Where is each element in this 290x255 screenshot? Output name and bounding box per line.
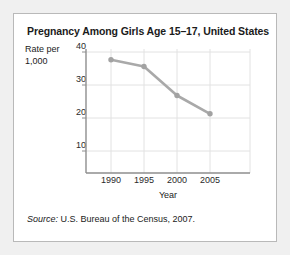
chart-plot-area: Rate per 1,000 40 30 20 10 1990 1995 200… [14, 14, 278, 243]
source-note: Source: U.S. Bureau of the Census, 2007. [27, 214, 195, 224]
data-point-2000 [174, 93, 179, 98]
source-label: Source: [27, 214, 58, 224]
source-value: U.S. Bureau of the Census, 2007. [58, 214, 195, 224]
figure-card: Pregnancy Among Girls Age 15–17, United … [13, 13, 277, 242]
data-point-2005 [207, 111, 212, 116]
data-series-line [111, 60, 210, 114]
vertical-gridlines [111, 49, 250, 173]
data-point-1995 [141, 64, 146, 69]
chart-svg [14, 14, 278, 243]
data-point-1990 [108, 57, 113, 62]
